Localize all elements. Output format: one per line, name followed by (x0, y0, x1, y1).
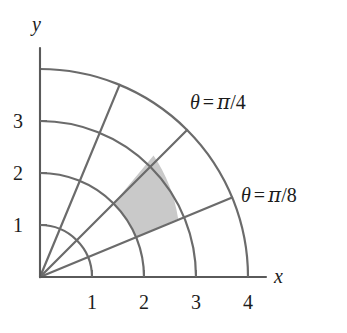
x-tick-label-1: 1 (82, 292, 102, 312)
equals-sign-upper: = (200, 91, 217, 113)
x-axis-label: x (274, 266, 283, 286)
equals-sign-lower: = (251, 184, 268, 206)
theta-symbol-lower: θ (241, 184, 251, 206)
fraction-upper: /4 (230, 91, 246, 113)
polar-grid-graphic (0, 0, 347, 333)
theta-symbol-upper: θ (190, 91, 200, 113)
theta-pi-over-4-label: θ=π/4 (190, 92, 246, 112)
fraction-lower: /8 (281, 184, 297, 206)
theta-pi-over-8-label: θ=π/8 (241, 185, 297, 205)
polar-coordinate-figure: y x 1 2 3 4 1 2 3 θ=π/4 θ=π/8 (0, 0, 347, 333)
y-tick-label-2: 2 (8, 163, 28, 183)
pi-symbol-lower: π (268, 183, 281, 207)
x-tick-label-4: 4 (238, 292, 258, 312)
y-tick-label-1: 1 (8, 215, 28, 235)
x-tick-label-2: 2 (134, 292, 154, 312)
y-axis-label: y (32, 14, 41, 34)
y-tick-label-3: 3 (8, 111, 28, 131)
pi-symbol-upper: π (217, 90, 230, 114)
x-tick-label-3: 3 (186, 292, 206, 312)
